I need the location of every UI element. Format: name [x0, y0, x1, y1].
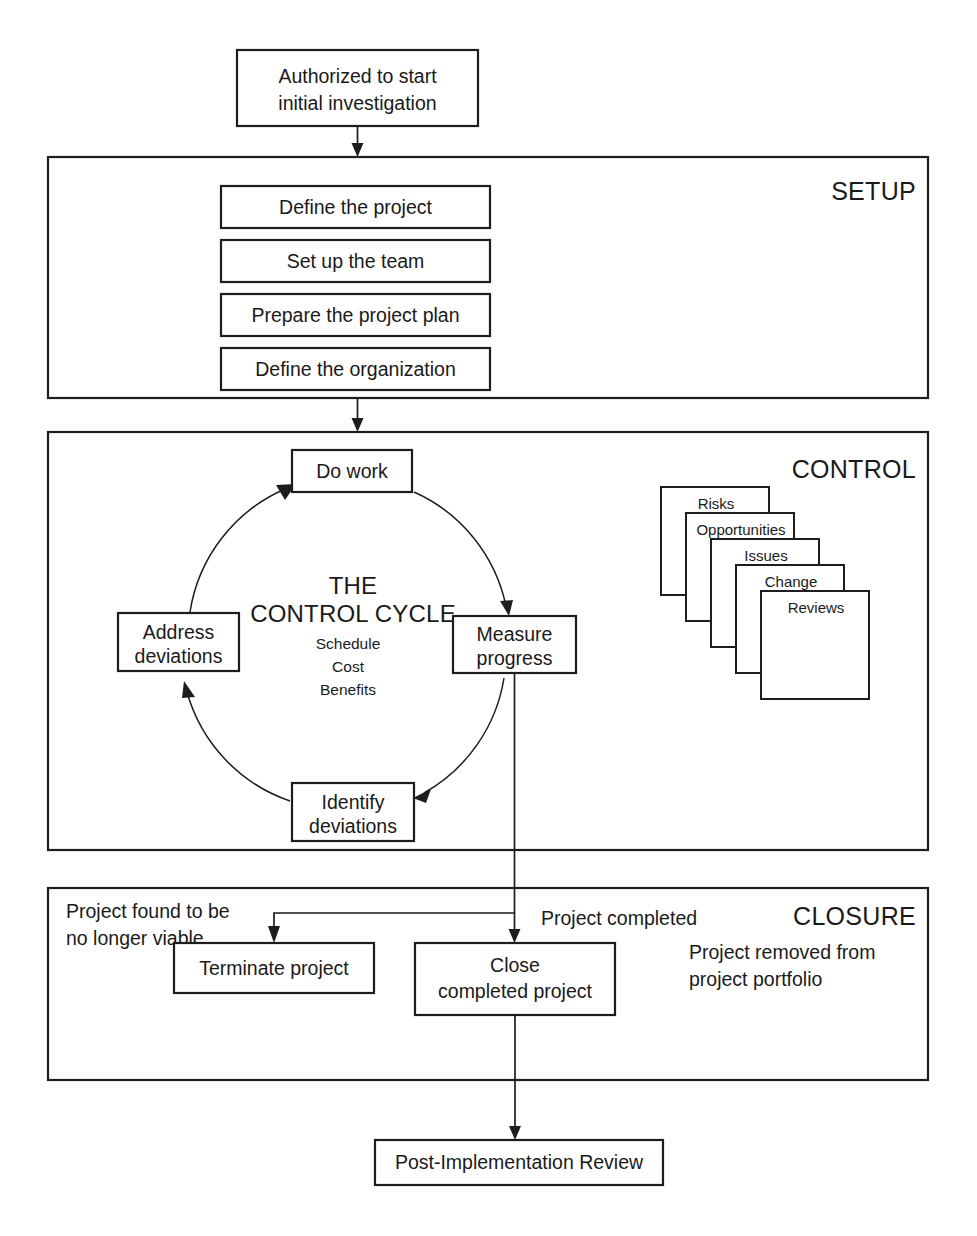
arrow-head-icon [352, 418, 364, 432]
cycle-node-label-line2: progress [477, 647, 553, 669]
setup-step-label: Define the project [279, 196, 432, 218]
connector-setup-to-control [352, 398, 364, 432]
cycle-node-label-line2: deviations [135, 645, 223, 667]
setup-section-heading: SETUP [831, 177, 916, 205]
setup-step-define-the-organization[interactable]: Define the organization [221, 348, 490, 390]
exit-node-post-implementation-review[interactable]: Post-Implementation Review [375, 1140, 663, 1185]
entry-node-authorized-to-start[interactable]: Authorized to start initial investigatio… [237, 50, 478, 126]
entry-node-label-line2: initial investigation [278, 92, 436, 114]
setup-step-label: Prepare the project plan [251, 304, 459, 326]
cycle-node-measure-progress[interactable]: Measure progress [453, 616, 576, 673]
cycle-title-line2: CONTROL CYCLE [250, 600, 456, 627]
cycle-node-label-line2: deviations [309, 815, 397, 837]
entry-node-label-line1: Authorized to start [278, 65, 437, 87]
closure-step-close-completed-project[interactable]: Close completed project [415, 943, 615, 1015]
setup-step-label: Define the organization [255, 358, 456, 380]
closure-note-removed-line1: Project removed from [689, 941, 875, 963]
control-section-heading: CONTROL [792, 455, 916, 483]
closure-section-heading: CLOSURE [793, 902, 916, 930]
arrow-head-icon [509, 929, 521, 943]
control-card-label: Risks [698, 495, 735, 512]
cycle-sub-item-cost: Cost [332, 658, 365, 675]
closure-note-removed-line2: project portfolio [689, 968, 822, 990]
entry-node-box [237, 50, 478, 126]
cycle-node-label-line1: Address [143, 621, 215, 643]
connector-entry-to-setup [352, 126, 364, 157]
cycle-arc-do-work-to-measure [414, 492, 513, 616]
arrow-head-icon [509, 1126, 521, 1140]
arrow-head-icon [413, 789, 431, 803]
closure-note-not-viable-line1: Project found to be [66, 900, 230, 922]
closure-step-label: Terminate project [199, 957, 349, 979]
cycle-node-address-deviations[interactable]: Address deviations [118, 613, 239, 671]
setup-step-define-the-project[interactable]: Define the project [221, 186, 490, 228]
cycle-title-line1: THE [329, 572, 378, 599]
cycle-arc-address-to-do-work [190, 484, 296, 612]
cycle-node-do-work[interactable]: Do work [292, 450, 412, 492]
exit-node-label: Post-Implementation Review [395, 1151, 644, 1173]
closure-step-terminate-project[interactable]: Terminate project [174, 943, 374, 993]
closure-note-project-completed: Project completed [541, 907, 697, 929]
arrow-head-icon [352, 143, 364, 157]
control-card-reviews[interactable]: Reviews [761, 591, 869, 699]
connector-close-to-post-implementation [509, 1015, 521, 1140]
cycle-arc-identify-to-address [182, 681, 290, 801]
cycle-sub-item-schedule: Schedule [316, 635, 381, 652]
cycle-node-identify-deviations[interactable]: Identify deviations [292, 783, 414, 841]
setup-step-label: Set up the team [287, 250, 425, 272]
connector-branch-to-terminate [268, 913, 515, 943]
control-card-label: Opportunities [696, 521, 785, 538]
connector-measure-to-closure [509, 673, 521, 943]
flowchart-canvas: Authorized to start initial investigatio… [0, 0, 977, 1236]
control-card-label: Change [765, 573, 818, 590]
cycle-sub-item-benefits: Benefits [320, 681, 376, 698]
arrow-head-icon [500, 600, 513, 616]
project-lifecycle-diagram: Authorized to start initial investigatio… [0, 0, 977, 1236]
setup-step-prepare-the-project-plan[interactable]: Prepare the project plan [221, 294, 490, 336]
arrow-head-icon [182, 681, 195, 698]
cycle-node-label-line1: Identify [322, 791, 385, 813]
control-card-label: Reviews [788, 599, 845, 616]
closure-step-label-line2: completed project [438, 980, 592, 1002]
setup-step-set-up-the-team[interactable]: Set up the team [221, 240, 490, 282]
arrow-head-icon [268, 926, 280, 943]
cycle-node-label: Do work [316, 460, 388, 482]
cycle-arc-measure-to-identify [413, 678, 504, 803]
control-card-label: Issues [744, 547, 787, 564]
closure-step-label-line1: Close [490, 954, 540, 976]
cycle-node-label-line1: Measure [477, 623, 553, 645]
